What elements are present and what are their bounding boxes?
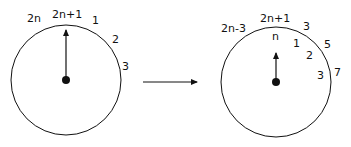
right-outer-label-3: 3 — [303, 20, 310, 33]
right-clock-center-dot — [272, 78, 280, 86]
left-clock-center-dot — [62, 76, 70, 84]
left-label-3: 3 — [122, 60, 129, 73]
left-label-2n: 2n — [27, 12, 41, 25]
right-inner-label-n: n — [272, 30, 279, 43]
right-label-2n-plus-1: 2n+1 — [260, 12, 290, 25]
right-inner-label-1: 1 — [293, 37, 300, 50]
right-inner-label-2: 2 — [306, 49, 313, 62]
left-label-1: 1 — [92, 14, 99, 27]
right-outer-label-5: 5 — [324, 38, 331, 51]
right-inner-label-3: 3 — [317, 69, 324, 82]
left-label-2n-plus-1: 2n+1 — [52, 8, 82, 21]
left-label-2: 2 — [112, 33, 119, 46]
right-label-2n-minus-3: 2n-3 — [221, 22, 246, 35]
right-clock: 2n-3 2n+1 3 5 7 n 1 2 3 — [221, 12, 341, 137]
left-clock: 2n 2n+1 1 2 3 — [11, 8, 129, 135]
right-outer-label-7: 7 — [334, 66, 341, 79]
clock-transformation-diagram: 2n 2n+1 1 2 3 2n-3 2n+1 3 5 7 n 1 2 3 — [0, 0, 351, 147]
